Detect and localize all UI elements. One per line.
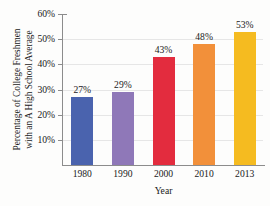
x-tick-label: 2010 (195, 168, 214, 179)
y-tick-label: 50% (37, 33, 55, 44)
cropped-chart-title (62, 0, 227, 3)
y-tick-label: 60% (37, 8, 55, 19)
bar: 43% (153, 57, 175, 165)
bar: 29% (112, 92, 134, 165)
bar-value-label: 48% (195, 31, 213, 42)
y-tick-label: 30% (37, 84, 55, 95)
bar: 53% (234, 32, 256, 165)
bar: 48% (193, 44, 215, 165)
bar-value-label: 27% (74, 84, 92, 95)
bar-value-label: 53% (236, 19, 254, 30)
bars-group: 27%29%43%48%53% (62, 14, 265, 165)
y-tick-label: 40% (37, 58, 55, 69)
y-axis-title-line1: Percentage of College Freshmen (12, 28, 22, 150)
bar-value-label: 43% (155, 44, 173, 55)
y-tick-label: 10% (37, 134, 55, 145)
x-tick-label: 2000 (154, 168, 173, 179)
x-tick-label: 1990 (113, 168, 132, 179)
x-axis-title: Year (62, 185, 265, 196)
bar-value-label: 29% (114, 79, 132, 90)
bar: 27% (71, 97, 93, 165)
x-tick-label: 1980 (73, 168, 92, 179)
y-tick-label: 20% (37, 109, 55, 120)
y-axis-title: Percentage of College Freshmen with an A… (12, 5, 35, 175)
y-axis-title-line2: with an A High School Average (23, 5, 35, 175)
bar-chart-figure: Percentage of College Freshmen with an A… (0, 0, 270, 206)
x-axis-line (62, 165, 265, 166)
x-axis-tick-labels: 19801990200020102013 (62, 168, 265, 182)
x-tick-label: 2013 (235, 168, 254, 179)
